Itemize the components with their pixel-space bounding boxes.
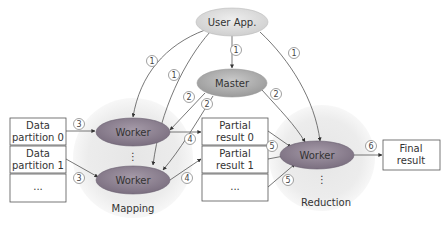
data-partition-more-label: ... — [33, 181, 43, 192]
reduce-workers-ellipsis: ⋮ — [317, 174, 327, 185]
step-2b-label: 2 — [204, 100, 209, 109]
data-partition-0-line1: Data — [26, 120, 50, 131]
step-1b-label: 1 — [171, 71, 176, 80]
partial-result-more-label: ... — [230, 181, 240, 192]
step-5b-label: 5 — [285, 176, 290, 185]
step-3b-label: 3 — [76, 174, 81, 183]
step-2a-label: 2 — [186, 93, 191, 102]
mapping-label: Mapping — [112, 203, 155, 214]
map-workers-ellipsis: ⋮ — [128, 151, 138, 162]
reduce-worker-label: Worker — [299, 150, 335, 161]
user-app-node: User App. — [196, 8, 268, 36]
step-6-label: 6 — [368, 142, 373, 151]
step-1a-label: 1 — [149, 57, 154, 66]
step-3a-label: 3 — [76, 120, 81, 129]
map-worker-1-node: Worker — [96, 166, 170, 194]
final-result-line2: result — [397, 155, 425, 166]
final-result-line1: Final — [399, 143, 422, 154]
mapreduce-diagram: User App. Master Worker ⋮ Worker Worker … — [0, 0, 446, 226]
step-5a-label: 5 — [269, 142, 274, 151]
map-worker-0-label: Worker — [115, 127, 151, 138]
step-4a-label: 4 — [187, 135, 192, 144]
data-partition-0-line2: partition 0 — [12, 132, 64, 143]
partial-result-0-line2: result 0 — [216, 132, 254, 143]
user-app-label: User App. — [208, 17, 257, 28]
step-1c-label: 1 — [233, 46, 238, 55]
map-worker-0-node: Worker — [96, 118, 170, 146]
master-node: Master — [197, 69, 267, 97]
reduction-label: Reduction — [301, 197, 351, 208]
partial-result-1-line1: Partial — [219, 148, 250, 159]
data-partition-1-line2: partition 1 — [12, 160, 64, 171]
reduce-worker-node: Worker — [280, 141, 354, 169]
map-worker-1-label: Worker — [115, 175, 151, 186]
step-1d-label: 1 — [291, 49, 296, 58]
step-2c-label: 2 — [273, 90, 278, 99]
partial-result-1-line2: result 1 — [216, 160, 254, 171]
partial-result-0-line1: Partial — [219, 120, 250, 131]
data-partition-1-line1: Data — [26, 148, 50, 159]
step-4b-label: 4 — [184, 174, 189, 183]
master-label: Master — [215, 78, 250, 89]
